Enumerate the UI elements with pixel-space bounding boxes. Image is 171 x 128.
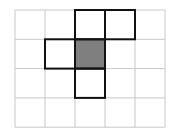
outlined-cell	[75, 69, 105, 98]
shaded-cell	[75, 39, 105, 68]
grid-diagram	[0, 0, 171, 128]
outlined-cell	[45, 39, 75, 68]
outlined-cell	[75, 10, 105, 39]
outlined-cell	[105, 10, 135, 39]
